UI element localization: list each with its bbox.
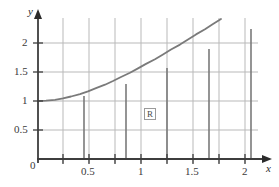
- x-tick-label-1: 1: [138, 166, 144, 177]
- y-axis-label: y: [28, 6, 33, 17]
- grid-lines: [37, 18, 258, 163]
- y-tick-label-2: 2: [22, 37, 28, 48]
- x-tick-label-2: 2: [242, 166, 248, 177]
- origin-label: 0: [30, 160, 36, 171]
- region-r-label: R: [144, 108, 156, 120]
- plot-canvas: [0, 0, 279, 187]
- y-axis: [33, 9, 43, 163]
- graph-figure: y x 2 1.5 1 0.5 0 0.5 1 1.5 2 R: [0, 0, 279, 187]
- x-axis-label: x: [266, 163, 271, 174]
- y-tick-label-1: 1: [22, 95, 28, 106]
- x-axis: [37, 154, 272, 164]
- x-tick-label-1p5: 1.5: [185, 166, 199, 177]
- y-tick-label-1p5: 1.5: [14, 66, 28, 77]
- y-tick-label-0p5: 0.5: [14, 124, 28, 135]
- x-tick-label-0p5: 0.5: [81, 166, 95, 177]
- function-curve: [38, 19, 221, 101]
